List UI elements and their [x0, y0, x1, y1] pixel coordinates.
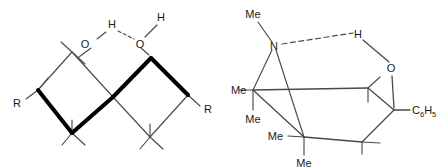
- bond-center-to-br: [113, 97, 150, 137]
- bond-o-cphenyl: [392, 76, 394, 108]
- sub-rl-b: [26, 90, 38, 99]
- hbond-hleft-oright: [118, 31, 134, 39]
- label-oxygen: O: [387, 62, 396, 74]
- sub-br-b: [150, 137, 163, 149]
- label-phenyl-group: C6H5: [412, 104, 436, 119]
- label-n-methyl: Me: [245, 8, 260, 20]
- left-hydrogen-bond-bridge: [79, 25, 157, 57]
- hbond-n-to-h: [282, 33, 353, 44]
- left-structure-diagram: O H O H R R: [0, 0, 222, 168]
- label-gem-methyl-1a: Me: [231, 84, 246, 96]
- sub-br-a: [140, 137, 150, 149]
- sub-tl-a: [61, 42, 72, 52]
- bond-n-c-left: [253, 50, 272, 90]
- sub-rl-a: [38, 78, 48, 90]
- label-gem-methyl-2b: Me: [296, 157, 311, 168]
- chemical-structure-figure: O H O H R R: [0, 0, 444, 168]
- bond-tl-to-center: [72, 52, 113, 97]
- bond-oright-hright: [145, 25, 157, 37]
- label-gem-methyl-2a: Me: [268, 130, 283, 142]
- label-hydroxyl-h: H: [354, 28, 362, 40]
- label-phenyl-sub-5: 5: [432, 110, 436, 119]
- label-h-left: H: [108, 18, 116, 30]
- sub-bl-a: [62, 133, 72, 145]
- bold-bond-bl-center: [72, 97, 113, 133]
- bond-me-4b: [362, 142, 380, 143]
- bond-me-n: [258, 22, 272, 42]
- bond-ring-right-lower: [362, 110, 394, 142]
- bond-ring-right-upper: [368, 88, 394, 110]
- bold-bond-tr-rr: [151, 58, 188, 95]
- label-h-right: H: [157, 11, 165, 23]
- label-nitrogen: N: [270, 40, 278, 52]
- sub-rr-b: [188, 95, 200, 106]
- label-o-right: O: [136, 38, 145, 50]
- bond-br-to-rr: [150, 95, 188, 137]
- label-phenyl-h: H: [424, 104, 432, 116]
- label-r-right: R: [204, 103, 212, 115]
- oxygen-phenyl-bonds: [363, 40, 410, 110]
- bond-ring-top-edge: [253, 88, 368, 90]
- bond-h-o: [363, 40, 389, 62]
- bold-bond-rl-bl: [38, 90, 72, 133]
- aziridine-ring-bonds: [253, 22, 304, 137]
- bond-me-3a: [368, 77, 380, 88]
- label-o-left: O: [81, 38, 90, 50]
- bold-bond-center-tr: [113, 58, 151, 97]
- label-gem-methyl-1b: Me: [245, 113, 260, 125]
- bond-me-2a: [288, 136, 304, 137]
- right-structure-diagram: Me N H O Me Me Me Me C6H5: [222, 0, 444, 168]
- bond-oleft-hleft: [97, 32, 106, 39]
- sub-bl-b: [72, 133, 85, 145]
- label-r-left: R: [13, 97, 21, 109]
- left-structure-bold-bonds: [38, 58, 188, 133]
- label-phenyl-c: C: [412, 104, 420, 116]
- bond-ring-bottom-edge: [304, 137, 362, 142]
